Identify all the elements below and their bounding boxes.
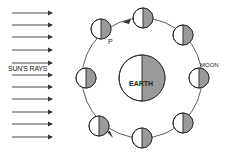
moon-icon (89, 116, 109, 136)
orbit-direction-arrow (107, 131, 113, 138)
moon-icon (133, 8, 153, 28)
sun-rays-label: SUN'S RAYS (8, 65, 47, 72)
sun-rays-arrows (12, 13, 52, 137)
point-p-label: P (108, 38, 113, 45)
earth-label: EARTH (129, 80, 153, 87)
moon-label: MOON (200, 62, 219, 68)
moon-icon (173, 25, 193, 45)
moon-icon (189, 68, 209, 88)
moon-icon (91, 19, 111, 39)
moon-icon (132, 128, 152, 148)
moon-icon (76, 68, 96, 88)
moon-icon (173, 113, 193, 133)
moon-phase-diagram (0, 0, 228, 155)
earth-icon (119, 55, 165, 101)
